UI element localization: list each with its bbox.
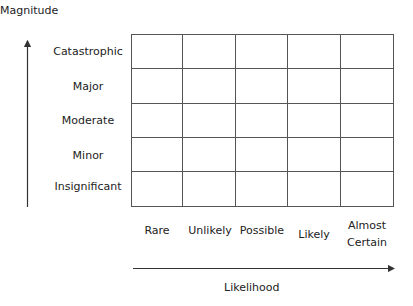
x-axis-title: Likelihood [224, 281, 279, 294]
axis-arrows [0, 0, 413, 306]
